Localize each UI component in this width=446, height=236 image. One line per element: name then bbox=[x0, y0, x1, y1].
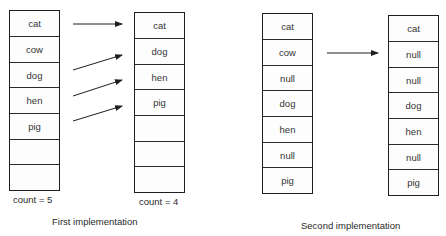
array-cell: null bbox=[389, 145, 438, 170]
array-cell: cow bbox=[10, 37, 59, 63]
array-cell: hen bbox=[135, 65, 184, 90]
array-cell bbox=[135, 116, 184, 142]
arrow-hen-to-hen bbox=[73, 80, 122, 96]
array-cell: null bbox=[389, 68, 438, 93]
array-cell: dog bbox=[10, 63, 59, 88]
array-cell: pig bbox=[135, 90, 184, 116]
array-cell bbox=[10, 165, 59, 190]
array-cell: hen bbox=[10, 88, 59, 114]
array-cell: null bbox=[389, 42, 438, 68]
first-after-array: cat dog hen pig bbox=[134, 12, 185, 193]
arrows-layer bbox=[0, 0, 446, 236]
array-cell: pig bbox=[389, 170, 438, 195]
second-after-array: cat null null dog hen null pig bbox=[388, 15, 439, 196]
array-cell bbox=[135, 167, 184, 192]
second-before-array: cat cow null dog hen null pig bbox=[262, 13, 313, 194]
array-cell: cat bbox=[263, 14, 312, 40]
array-cell: null bbox=[263, 66, 312, 91]
second-implementation-caption: Second implementation bbox=[301, 220, 400, 231]
count-label-before: count = 5 bbox=[13, 194, 52, 205]
array-cell: cat bbox=[10, 11, 59, 37]
count-label-after: count = 4 bbox=[139, 196, 178, 207]
array-cell: hen bbox=[389, 119, 438, 145]
array-cell: pig bbox=[263, 168, 312, 193]
arrow-pig-to-pig bbox=[73, 106, 122, 121]
array-cell: null bbox=[263, 143, 312, 168]
arrow-dog-to-dog bbox=[73, 55, 122, 70]
first-implementation-caption: First implementation bbox=[52, 216, 138, 227]
array-cell bbox=[10, 140, 59, 165]
array-cell: cat bbox=[389, 16, 438, 42]
array-cell: hen bbox=[263, 117, 312, 143]
array-cell: pig bbox=[10, 114, 59, 140]
array-cell: cat bbox=[135, 13, 184, 39]
first-before-array: cat cow dog hen pig bbox=[9, 10, 60, 191]
array-cell: dog bbox=[135, 39, 184, 65]
array-cell: dog bbox=[263, 91, 312, 117]
array-cell: dog bbox=[389, 93, 438, 119]
array-cell: cow bbox=[263, 40, 312, 66]
array-cell bbox=[135, 142, 184, 167]
